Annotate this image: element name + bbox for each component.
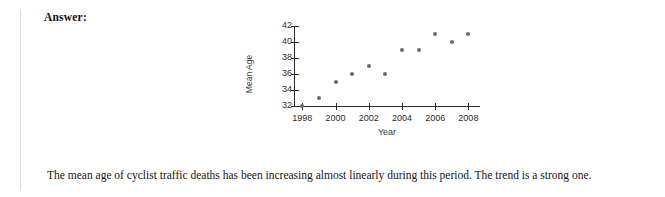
- x-tick-mark: [402, 103, 403, 110]
- data-point: [400, 48, 404, 52]
- y-tick-mark: [291, 42, 299, 43]
- answer-label: Answer:: [44, 11, 87, 23]
- x-tick-mark: [336, 103, 337, 110]
- page-margin-rule: [20, 10, 21, 190]
- y-tick-mark: [291, 58, 299, 59]
- conclusion-paragraph: The mean age of cyclist traffic deaths h…: [47, 168, 647, 182]
- y-tick-mark: [291, 74, 299, 75]
- y-axis-line: [294, 26, 295, 106]
- data-point: [317, 96, 321, 100]
- x-tick-mark: [369, 103, 370, 110]
- data-point: [334, 80, 338, 84]
- y-axis-title: Mean Age: [244, 44, 254, 104]
- x-tick-label: 2000: [326, 113, 346, 123]
- x-tick-label: 2008: [458, 113, 478, 123]
- x-tick-label: 2006: [425, 113, 445, 123]
- y-tick-mark: [291, 90, 299, 91]
- data-point: [450, 40, 454, 44]
- x-tick-mark: [468, 103, 469, 110]
- data-point: [466, 32, 470, 36]
- plot-area: [294, 26, 480, 106]
- data-point: [383, 72, 387, 76]
- data-point: [300, 104, 304, 108]
- x-axis-line: [294, 106, 480, 107]
- x-tick-label: 1998: [292, 113, 312, 123]
- x-tick-label: 2002: [359, 113, 379, 123]
- data-point: [350, 72, 354, 76]
- x-axis-tick-labels: 199820002002200420062008: [294, 113, 480, 127]
- x-tick-mark: [435, 103, 436, 110]
- x-tick-label: 2004: [392, 113, 412, 123]
- scatter-chart: Mean Age 323436384042 199820002002200420…: [248, 26, 488, 146]
- y-tick-mark: [291, 26, 299, 27]
- data-point: [433, 32, 437, 36]
- data-point: [417, 48, 421, 52]
- y-tick-mark: [291, 106, 299, 107]
- x-axis-title: Year: [294, 127, 480, 137]
- y-axis-tick-labels: 323436384042: [266, 26, 292, 106]
- data-point: [367, 64, 371, 68]
